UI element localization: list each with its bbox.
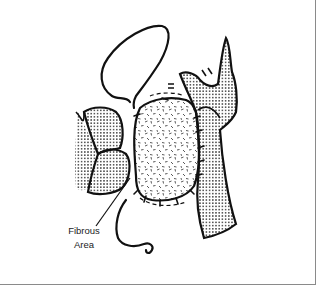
upper-loop-outline — [102, 26, 169, 108]
central-fibrous-mass — [134, 98, 199, 200]
label-line-2: Area — [60, 238, 108, 252]
label-line-1: Fibrous — [60, 224, 108, 238]
fibrous-area-label: Fibrous Area — [60, 224, 108, 252]
anatomical-illustration — [0, 0, 321, 289]
lower-strand — [116, 200, 152, 253]
mass-dashed-top — [150, 93, 184, 96]
